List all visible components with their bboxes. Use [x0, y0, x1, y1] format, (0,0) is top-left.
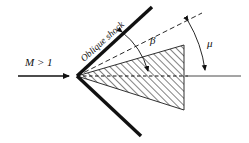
figure-canvas: M > 1 Oblique shock β μ — [0, 0, 249, 143]
freestream-label: M > 1 — [24, 56, 53, 68]
mach-angle-label: μ — [206, 37, 213, 49]
oblique-shock-figure: M > 1 Oblique shock β μ — [0, 0, 249, 143]
mach-angle-arc — [188, 21, 205, 70]
shock-angle-label: β — [149, 34, 156, 46]
oblique-shock-label: Oblique shock — [79, 19, 127, 63]
